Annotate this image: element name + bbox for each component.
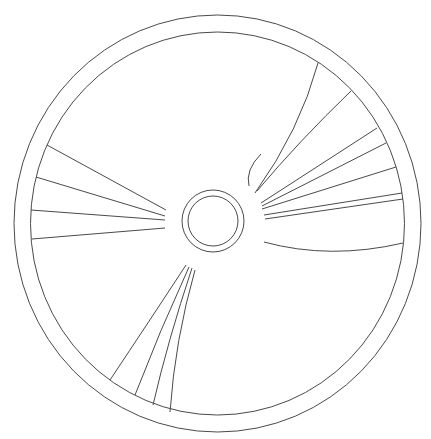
spoke xyxy=(170,270,195,412)
rim xyxy=(14,15,421,432)
spoke xyxy=(255,63,318,193)
spokes-lower-left xyxy=(110,265,195,412)
rim-outer xyxy=(14,15,421,432)
hub-outer xyxy=(182,190,244,252)
rim-inner xyxy=(31,32,405,415)
spokes-left xyxy=(31,145,166,239)
hub xyxy=(182,190,244,252)
spoke-fragment xyxy=(248,154,261,186)
hub-inner xyxy=(188,196,238,246)
spoke xyxy=(31,210,165,220)
spokes-upper-right xyxy=(248,63,403,251)
wheel-diagram xyxy=(0,0,431,439)
spoke xyxy=(261,128,377,203)
spoke xyxy=(32,228,165,239)
spoke xyxy=(264,242,403,251)
spoke xyxy=(36,177,165,216)
spoke xyxy=(264,193,402,215)
spoke xyxy=(47,145,166,210)
